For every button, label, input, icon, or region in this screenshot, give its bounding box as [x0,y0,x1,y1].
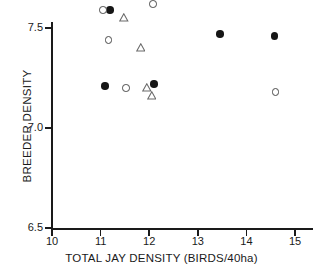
data-point-open-triangle [136,38,146,56]
x-tick-label: 13 [185,236,211,247]
data-point-open-triangle [119,8,129,26]
y-tick-label: 7.0 [17,122,43,133]
x-tick-label: 10 [39,236,65,247]
data-point-filled-circle [271,32,279,40]
x-tick-label: 14 [233,236,259,247]
y-axis-line [51,22,53,229]
y-tick-mark [45,127,52,129]
data-point-filled-circle [101,82,109,90]
data-point-open-circle [105,36,113,44]
x-tick-label: 12 [136,236,162,247]
x-axis-label: TOTAL JAY DENSITY (BIRDS/40ha) [0,252,323,264]
data-point-filled-circle [216,30,224,38]
y-tick-label: 6.5 [17,222,43,233]
x-tick-label: 15 [282,236,308,247]
y-tick-label: 7.5 [17,22,43,33]
data-point-open-circle [149,0,157,8]
data-point-open-triangle [147,86,157,104]
x-tick-label: 11 [88,236,114,247]
scatter-plot-figure: BREEDER DENSITY TOTAL JAY DENSITY (BIRDS… [0,0,323,274]
data-point-open-circle [122,84,130,92]
data-point-filled-circle [106,6,114,14]
data-point-open-circle [99,6,107,14]
data-point-open-circle [272,88,280,96]
y-tick-mark [45,27,52,29]
x-axis-line [51,228,313,230]
